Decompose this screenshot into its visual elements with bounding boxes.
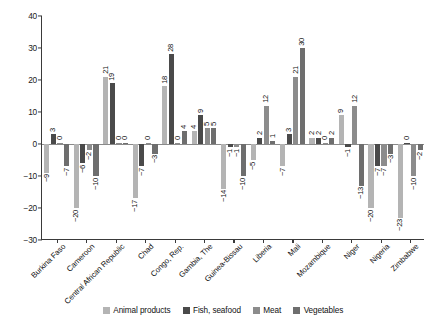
bar[interactable] [270,141,275,144]
bar[interactable] [264,106,269,144]
bar[interactable] [287,134,292,144]
bar[interactable] [251,144,256,160]
bar-value-label: 5 [210,122,218,126]
bar-slot: 4 [182,16,187,239]
bar[interactable] [198,115,203,144]
bar-value-label: 12 [262,95,270,103]
y-axis-tick-mark [38,143,42,144]
bar[interactable] [375,144,380,166]
bar[interactable] [44,144,49,173]
bar-slot: 0 [146,16,151,239]
bar-slot: −1 [234,16,239,239]
bar-value-label: 1 [269,134,277,138]
bar[interactable] [74,144,79,208]
bar[interactable] [234,144,239,147]
bar-value-label: −10 [410,178,418,190]
bar-value-label: −1 [233,149,241,157]
bar-slot: −7 [139,16,144,239]
bar[interactable] [418,144,423,150]
bar[interactable] [110,83,115,144]
bar[interactable] [192,131,197,144]
bar-group: 2202 [307,16,336,239]
bar[interactable] [404,143,409,144]
bar-group: 182804 [160,16,189,239]
bar-group: −930−7 [42,16,71,239]
bar[interactable] [241,144,246,176]
bar-value-label: 28 [167,44,175,52]
legend-item[interactable]: Meat [253,306,281,315]
legend-swatch-icon [293,307,300,314]
bar[interactable] [211,128,216,144]
bar[interactable] [329,138,334,144]
bar[interactable] [146,143,151,144]
bar-slot: 3 [51,16,56,239]
bar-slot: −13 [359,16,364,239]
bar[interactable] [280,144,285,166]
bar-value-label: −23 [397,219,405,231]
bar[interactable] [257,138,262,144]
bar[interactable] [352,106,357,144]
bar[interactable] [169,54,174,144]
bar[interactable] [205,128,210,144]
bar[interactable] [182,131,187,144]
bar-slot: 28 [169,16,174,239]
bar-group: 9−112−13 [337,16,366,239]
bar[interactable] [175,143,180,144]
bar[interactable] [228,144,233,147]
bar-value-label: −3 [387,155,395,163]
bar-value-label: −2 [86,152,94,160]
bar-value-label: 21 [292,66,300,74]
bar-value-label: 3 [50,128,58,132]
bar[interactable] [398,144,403,218]
bar[interactable] [300,48,305,144]
bar-slot: 5 [211,16,216,239]
bar[interactable] [64,144,69,166]
bar-slot: 0 [116,16,121,239]
bar-value-label: 2 [315,131,323,135]
y-axis-tick-mark [38,175,42,176]
bar-slot: 0 [404,16,409,239]
legend-label: Vegetables [304,306,344,315]
bar[interactable] [57,143,62,144]
legend-label: Meat [263,306,281,315]
bar-slot: −7 [64,16,69,239]
bar[interactable] [87,144,92,150]
bar-slot: −23 [398,16,403,239]
y-axis-tick-mark [38,207,42,208]
bar[interactable] [93,144,98,176]
bar[interactable] [123,143,128,144]
legend-item[interactable]: Vegetables [293,306,343,315]
bar-value-label: −17 [131,200,139,212]
bar[interactable] [345,144,350,147]
bar[interactable] [293,77,298,144]
bar-value-label: −13 [357,187,365,199]
bar-value-label: −7 [380,168,388,176]
bar-group: −20−7−7−3 [366,16,395,239]
bar[interactable] [139,144,144,166]
bar[interactable] [339,115,344,144]
y-axis-tick-mark [38,239,42,240]
bar-value-label: −3 [151,155,159,163]
bar-slot: 2 [257,16,262,239]
bar-value-label: 3 [285,128,293,132]
bar-slot: −20 [74,16,79,239]
plot-area: −930−7−20−6−2−10211900−17−70−31828044955… [41,16,424,240]
bar-slot: −14 [221,16,226,239]
bar[interactable] [359,144,364,186]
bar-slot: 2 [329,16,334,239]
bar[interactable] [162,86,167,144]
bar[interactable] [388,144,393,154]
bar-value-label: −9 [43,174,51,182]
bar-slot: −10 [241,16,246,239]
legend-item[interactable]: Animal products [103,306,171,315]
bar[interactable] [116,143,121,144]
bar[interactable] [152,144,157,154]
legend-item[interactable]: Fish, seafood [183,306,241,315]
bar[interactable] [323,143,328,144]
bar-slot: 2 [316,16,321,239]
bar[interactable] [309,138,314,144]
bar-value-label: 0 [56,136,64,140]
bar-slot: 0 [323,16,328,239]
bar-value-label: −10 [92,178,100,190]
bar[interactable] [103,77,108,144]
